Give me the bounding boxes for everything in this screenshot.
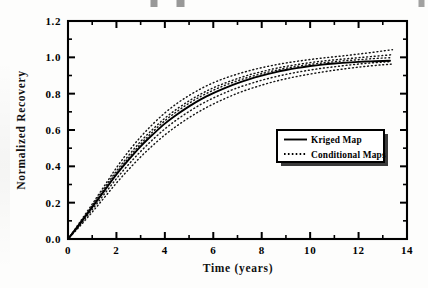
y-tick-label: 0.0 bbox=[45, 233, 61, 245]
chart-plot: 02468101214 0.00.20.40.60.81.01.2 Kriged… bbox=[0, 0, 428, 288]
x-tick-label: 10 bbox=[304, 244, 316, 256]
y-tick-label: 0.2 bbox=[45, 197, 61, 209]
y-tick-labels: 0.00.20.40.60.81.01.2 bbox=[45, 15, 61, 245]
x-tick-label: 8 bbox=[259, 244, 265, 256]
x-tick-label: 2 bbox=[113, 244, 119, 256]
y-axis-title: Normalized Recovery bbox=[15, 70, 28, 190]
y-tick-label: 0.8 bbox=[45, 88, 61, 100]
y-tick-label: 1.0 bbox=[45, 51, 61, 63]
x-tick-label: 12 bbox=[352, 244, 364, 256]
y-tick-label: 0.6 bbox=[45, 124, 61, 136]
y-tick-label: 0.4 bbox=[45, 160, 61, 172]
y-tick-label: 1.2 bbox=[45, 15, 61, 27]
x-tick-label: 4 bbox=[162, 244, 168, 256]
legend-label-conditional-maps: Conditional Maps bbox=[311, 150, 386, 160]
x-tick-label: 14 bbox=[401, 244, 413, 256]
figure-canvas: 02468101214 0.00.20.40.60.81.01.2 Kriged… bbox=[0, 0, 428, 288]
chart-legend: Kriged Map Conditional Maps bbox=[277, 130, 388, 166]
x-tick-label: 0 bbox=[65, 244, 71, 256]
x-tick-labels: 02468101214 bbox=[65, 244, 413, 256]
x-axis-title: Time (years) bbox=[203, 262, 273, 275]
x-tick-label: 6 bbox=[210, 244, 216, 256]
legend-label-kriged-map: Kriged Map bbox=[311, 135, 362, 145]
